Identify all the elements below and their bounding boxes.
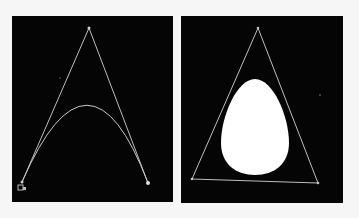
cursor-icon — [18, 185, 26, 190]
stray-point — [59, 77, 61, 79]
vertex-apex[interactable] — [257, 27, 260, 30]
bezier-curve-panel — [12, 16, 173, 202]
egg-shape — [221, 79, 289, 175]
control-point-apex[interactable] — [88, 27, 91, 30]
filled-shape-drawing — [181, 16, 343, 203]
control-point-end[interactable] — [146, 181, 150, 185]
filled-shape-panel — [181, 16, 343, 203]
control-point-start[interactable] — [21, 181, 24, 184]
stray-point — [319, 94, 321, 96]
vertex-right[interactable] — [317, 182, 320, 185]
bezier-curve-drawing — [12, 16, 173, 202]
vertex-left[interactable] — [191, 178, 194, 181]
quadratic-bezier-curve — [22, 105, 148, 183]
